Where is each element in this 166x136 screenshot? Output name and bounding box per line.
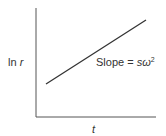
y-axis-label: ln r: [8, 57, 23, 68]
y-axis-label-prefix: ln: [8, 56, 20, 68]
data-line: [46, 20, 146, 84]
slope-prefix: Slope =: [96, 56, 137, 68]
slope-exponent: 2: [151, 56, 155, 63]
y-axis-label-var: r: [20, 56, 24, 68]
slope-var: sω: [137, 56, 151, 68]
slope-annotation: Slope = sω2: [96, 57, 155, 68]
plot-area: [0, 0, 166, 136]
figure: ln r Slope = sω2 t: [0, 0, 166, 136]
x-axis-label: t: [92, 124, 95, 135]
